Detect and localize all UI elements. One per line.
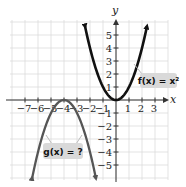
y-tick-label: −4 <box>97 147 112 158</box>
y-tick-label: −5 <box>97 160 112 171</box>
y-axis-label: y <box>111 4 119 17</box>
x-axis-label: x <box>170 93 177 106</box>
y-tick-label: 5 <box>106 30 112 41</box>
g-label-text: g(x) = ? <box>43 147 83 157</box>
y-tick-label: 2 <box>106 69 112 80</box>
y-tick-label: 3 <box>106 56 112 67</box>
coordinate-plane: −7−6−5−4−3−2−1123−5−4−3−2−112345 f(x) = … <box>0 0 186 187</box>
x-tick-label: 2 <box>138 103 144 114</box>
y-tick-label: 4 <box>106 43 112 54</box>
x-tick-label: 1 <box>125 103 131 114</box>
x-tick-label: 3 <box>151 103 157 114</box>
y-tick-label: −2 <box>97 121 112 132</box>
y-tick-label: −1 <box>97 108 112 119</box>
f-label: f(x) = x² <box>138 73 180 88</box>
g-label: g(x) = ? <box>43 143 83 159</box>
y-tick-label: −3 <box>97 134 112 145</box>
f-label-text: f(x) = x² <box>138 76 180 86</box>
